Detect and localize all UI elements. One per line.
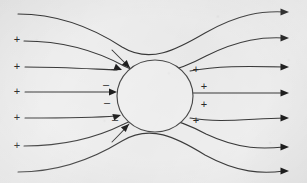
induced-negative-sign-1: –: [103, 78, 110, 90]
source-charge-sign-2: +: [14, 85, 20, 97]
conducting-sphere: [117, 60, 193, 132]
induced-positive-sign-3: +: [193, 114, 199, 126]
induced-positive-sign-2: +: [201, 98, 207, 110]
induced-positive-sign-0: +: [193, 63, 199, 75]
field-line-diagram: +++++ –––– ++++: [0, 0, 307, 183]
induced-negative-sign-0: –: [111, 62, 118, 74]
induced-positive-sign-1: +: [201, 80, 207, 92]
induced-negative-sign-2: –: [104, 96, 111, 108]
source-charge-sign-4: +: [14, 139, 20, 151]
source-charge-sign-3: +: [14, 111, 20, 123]
diagram-canvas: +++++ –––– ++++: [0, 0, 307, 183]
source-charge-sign-1: +: [14, 60, 20, 72]
induced-negative-sign-3: –: [112, 113, 119, 125]
source-charge-sign-0: +: [14, 33, 20, 45]
